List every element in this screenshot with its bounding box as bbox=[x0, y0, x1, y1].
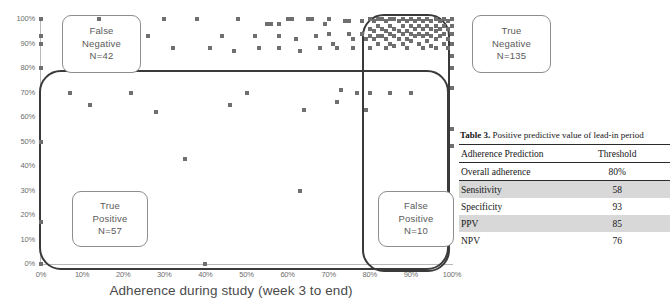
scatter-point bbox=[351, 37, 355, 41]
scatter-point bbox=[450, 144, 454, 148]
scatter-point bbox=[294, 37, 298, 41]
callout-fn-count: N=42 bbox=[90, 50, 114, 63]
scatter-point bbox=[446, 46, 450, 50]
y-tick-label: 80% bbox=[0, 64, 35, 72]
scatter-point bbox=[39, 42, 43, 46]
x-tick-label: 0% bbox=[21, 270, 61, 279]
scatter-point bbox=[360, 19, 364, 23]
scatter-point bbox=[39, 34, 43, 38]
scatter-point bbox=[372, 29, 376, 33]
scatter-point bbox=[220, 34, 224, 38]
table-row: Sensitivity58 bbox=[459, 181, 670, 199]
table-row: Specificity93 bbox=[459, 198, 670, 215]
scatter-point bbox=[450, 17, 454, 21]
callout-true-positive: True Positive N=57 bbox=[72, 191, 148, 247]
x-tick-label: 100% bbox=[432, 270, 472, 279]
scatter-point bbox=[417, 42, 421, 46]
callout-tp-line2: Positive bbox=[93, 213, 128, 226]
scatter-point bbox=[327, 17, 331, 21]
y-tick-label: 60% bbox=[0, 113, 35, 121]
y-tick-label: 100% bbox=[0, 15, 35, 23]
scatter-point bbox=[450, 86, 454, 90]
scatter-point bbox=[368, 91, 372, 95]
x-tick-label: 30% bbox=[144, 270, 184, 279]
scatter-point bbox=[68, 91, 72, 95]
scatter-point bbox=[425, 39, 429, 43]
scatter-point bbox=[277, 22, 281, 26]
scatter-point bbox=[208, 46, 212, 50]
scatter-point bbox=[355, 91, 359, 95]
scatter-point bbox=[347, 32, 351, 36]
table-cell-label: Adherence Prediction bbox=[459, 145, 565, 163]
callout-fn-line1: False bbox=[89, 25, 113, 38]
x-axis-title: Adherence during study (week 3 to end) bbox=[0, 283, 462, 298]
table-cell-value: 93 bbox=[565, 198, 671, 215]
table-row: PPV85 bbox=[459, 215, 670, 232]
scatter-point bbox=[392, 44, 396, 48]
scatter-point bbox=[39, 262, 43, 266]
callout-fp-count: N=10 bbox=[404, 225, 428, 238]
scatter-point bbox=[302, 108, 306, 112]
table-cell-label: Specificity bbox=[459, 198, 565, 215]
scatter-point bbox=[97, 17, 101, 21]
scatter-point bbox=[351, 46, 355, 50]
callout-false-negative: False Negative N=42 bbox=[62, 15, 141, 73]
scatter-point bbox=[310, 17, 314, 21]
table-cell-label: NPV bbox=[459, 232, 565, 249]
scatter-point bbox=[277, 46, 281, 50]
table-row: NPV76 bbox=[459, 232, 670, 249]
scatter-point bbox=[245, 91, 249, 95]
scatter-point bbox=[232, 49, 236, 53]
scatter-point bbox=[450, 24, 454, 28]
scatter-point bbox=[39, 140, 43, 144]
scatter-point bbox=[129, 91, 133, 95]
table-cell-label: Overall adherence bbox=[459, 163, 565, 181]
table-cell-value: 58 bbox=[565, 181, 671, 199]
x-tick-label: 40% bbox=[185, 270, 225, 279]
y-tick-label: 0% bbox=[0, 260, 35, 268]
y-tick-label: 90% bbox=[0, 40, 35, 48]
scatter-point bbox=[450, 32, 454, 36]
table-caption-label: Table 3. bbox=[460, 130, 490, 140]
figure-root: 0%10%20%30%40%50%60%70%80%90%100% 0%10%2… bbox=[0, 0, 672, 303]
table-cell-value: 85 bbox=[565, 215, 671, 232]
table-row: Overall adherence80% bbox=[459, 163, 670, 181]
scatter-point bbox=[269, 22, 273, 26]
scatter-point bbox=[257, 46, 261, 50]
scatter-point bbox=[384, 46, 388, 50]
x-tick-label: 10% bbox=[62, 270, 102, 279]
scatter-point bbox=[228, 103, 232, 107]
scatter-point bbox=[335, 46, 339, 50]
scatter-point bbox=[347, 19, 351, 23]
scatter-point bbox=[364, 108, 368, 112]
callout-fp-line1: False bbox=[404, 200, 428, 213]
scatter-point bbox=[335, 100, 339, 104]
x-tick-label: 70% bbox=[309, 270, 349, 279]
scatter-point bbox=[277, 34, 281, 38]
scatter-point bbox=[39, 17, 43, 21]
x-tick-label: 20% bbox=[103, 270, 143, 279]
table-cell-label: Sensitivity bbox=[459, 181, 565, 199]
table-caption-text: Positive predictive value of lead-in per… bbox=[490, 130, 643, 140]
table-header-row: Adherence PredictionThreshold bbox=[459, 145, 670, 163]
table-3: Adherence PredictionThresholdOverall adh… bbox=[459, 144, 670, 249]
table-cell-value: 80% bbox=[565, 163, 671, 181]
callout-fn-line2: Negative bbox=[82, 38, 121, 51]
scatter-point bbox=[384, 37, 388, 41]
y-tick-label: 40% bbox=[0, 162, 35, 170]
table-cell-value: Threshold bbox=[565, 145, 671, 163]
scatter-point bbox=[450, 66, 454, 70]
scatter-point bbox=[39, 66, 43, 70]
scatter-chart: 0%10%20%30%40%50%60%70%80%90%100% 0%10%2… bbox=[0, 0, 462, 303]
scatter-point bbox=[298, 189, 302, 193]
scatter-point bbox=[298, 49, 302, 53]
callout-tn-line2: Negative bbox=[492, 38, 531, 51]
table-cell-label: PPV bbox=[459, 215, 565, 232]
scatter-point bbox=[376, 42, 380, 46]
scatter-point bbox=[253, 34, 257, 38]
scatter-point bbox=[183, 157, 187, 161]
scatter-point bbox=[405, 46, 409, 50]
scatter-point bbox=[323, 22, 327, 26]
y-tick-label: 50% bbox=[0, 138, 35, 146]
table-caption: Table 3. Positive predictive value of le… bbox=[459, 129, 670, 144]
